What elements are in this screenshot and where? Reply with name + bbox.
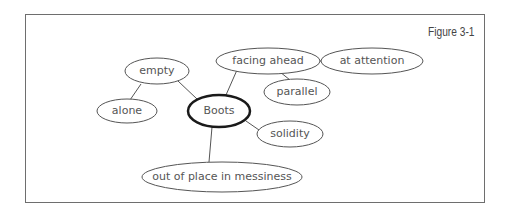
edge-boots-facing-ahead [226,70,237,95]
node-messiness: out of place in messiness [142,162,302,192]
node-label: Boots [203,104,234,117]
node-label: facing ahead [232,54,303,67]
node-at-attention: at attention [321,48,423,74]
node-label: solidity [270,127,310,140]
node-label: parallel [277,85,318,98]
node-label: out of place in messiness [152,170,292,183]
node-solidity: solidity [257,121,323,147]
node-alone: alone [97,99,157,123]
node-label: empty [139,64,175,77]
node-parallel: parallel [264,79,330,105]
edge-boots-solidity [246,121,259,130]
edge-empty-alone [130,84,141,100]
node-facing-ahead: facing ahead [216,48,320,74]
node-label: alone [112,104,142,117]
cluster-diagram: empty alone Boots facing ahead at attent… [0,0,511,216]
node-empty: empty [125,58,189,84]
edge-boots-empty [178,81,197,99]
edge-boots-messiness [209,127,212,162]
node-boots: Boots [188,95,250,127]
node-label: at attention [340,54,405,67]
